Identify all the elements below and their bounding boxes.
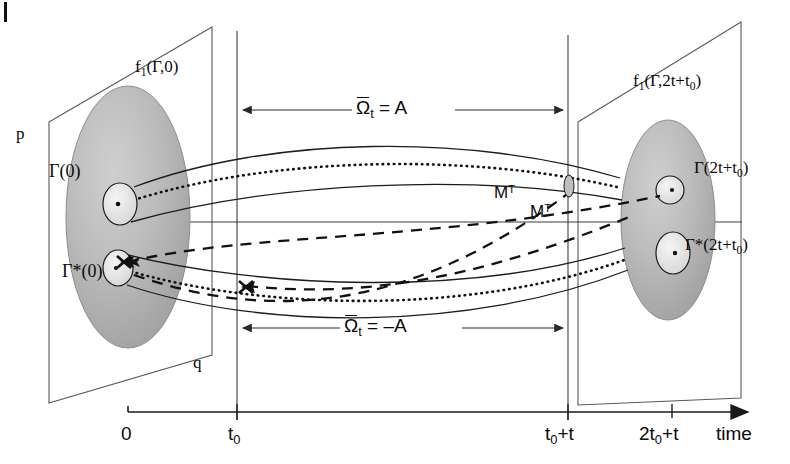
gamma-star-final-label-tail: ) xyxy=(742,235,748,254)
time-tick-label-0: 0 xyxy=(121,424,132,443)
mapping-curves xyxy=(128,195,660,301)
mapping-curve-cross xyxy=(247,215,634,289)
time-tick-label-0-prefix: 0 xyxy=(121,423,132,444)
time-axis-label: time xyxy=(716,424,752,443)
lower-measure-label: Ωt = –A xyxy=(344,316,407,339)
map-label-2-sup: T xyxy=(544,202,551,214)
gamma-star-final-label-prefix: Γ*(2t+t xyxy=(685,235,737,254)
map-label-1-base: M xyxy=(494,183,508,202)
gamma-star-final-label: Γ*(2t+t0) xyxy=(685,236,748,256)
gamma-final-label-prefix: Γ(2t+t xyxy=(694,158,737,177)
upper-measure-label: Ωt = A xyxy=(356,98,407,121)
time-tick-label-2t0-plus-t: 2t0+t xyxy=(639,424,678,447)
upper-measure-symbol: Ω xyxy=(356,98,370,117)
right-phase-blob xyxy=(621,120,715,320)
time-tick-label-2t0-plus-t-sub: 0 xyxy=(655,432,662,447)
lower-trajectory-tube xyxy=(124,248,628,318)
lower-measure-sub: t xyxy=(358,324,362,339)
gamma-zero-disk xyxy=(103,183,137,225)
gamma-star-zero-label: Γ*(0) xyxy=(62,262,102,280)
right-plane-label-tail: ) xyxy=(695,71,701,90)
map-label-2-base: M xyxy=(530,202,544,221)
lower-measure-relation: = –A xyxy=(367,315,407,336)
map-label-2: MT xyxy=(530,203,551,220)
map-label-1-sup: T xyxy=(508,183,515,195)
time-tick-label-2t0-plus-t-prefix: 2t xyxy=(639,423,655,444)
mapping-curve-upper xyxy=(128,196,660,262)
time-tick-label-t0-plus-t: t0+t xyxy=(545,424,574,447)
waist-disk-upper xyxy=(564,175,574,197)
axis-label-p: p xyxy=(16,125,25,142)
diagram-vector-layer xyxy=(0,0,790,464)
time-tick-label-t0-plus-t-suffix: +t xyxy=(557,423,573,444)
upper-measure-sub: t xyxy=(370,106,374,121)
left-plane-label-suffix: (Γ,0) xyxy=(146,57,178,76)
lower-measure-symbol: Ω xyxy=(344,316,358,335)
figure-canvas: p q f1(Γ,0) f1(Γ,2t+t0) Γ(0) Γ*(0) Γ(2t+… xyxy=(0,0,790,464)
time-tick-label-t0-sub: 0 xyxy=(233,432,240,447)
upper-measure-relation: = A xyxy=(379,97,407,118)
time-axis xyxy=(128,404,748,420)
gamma-final-label: Γ(2t+t0) xyxy=(694,159,748,179)
gamma-zero-label: Γ(0) xyxy=(49,162,80,180)
gamma-final-label-tail: ) xyxy=(743,158,749,177)
map-label-1: MT xyxy=(494,184,515,201)
right-plane-label-suffix: (Γ,2t+t xyxy=(644,71,689,90)
gamma-final-disk xyxy=(656,176,684,204)
time-tick-label-2t0-plus-t-suffix: +t xyxy=(662,423,678,444)
mapping-curve-lower xyxy=(134,195,566,301)
right-plane-label: f1(Γ,2t+t0) xyxy=(633,72,701,92)
axis-label-q: q xyxy=(193,354,202,371)
time-tick-label-t0: t0 xyxy=(228,424,240,447)
left-plane-label: f1(Γ,0) xyxy=(135,58,178,78)
